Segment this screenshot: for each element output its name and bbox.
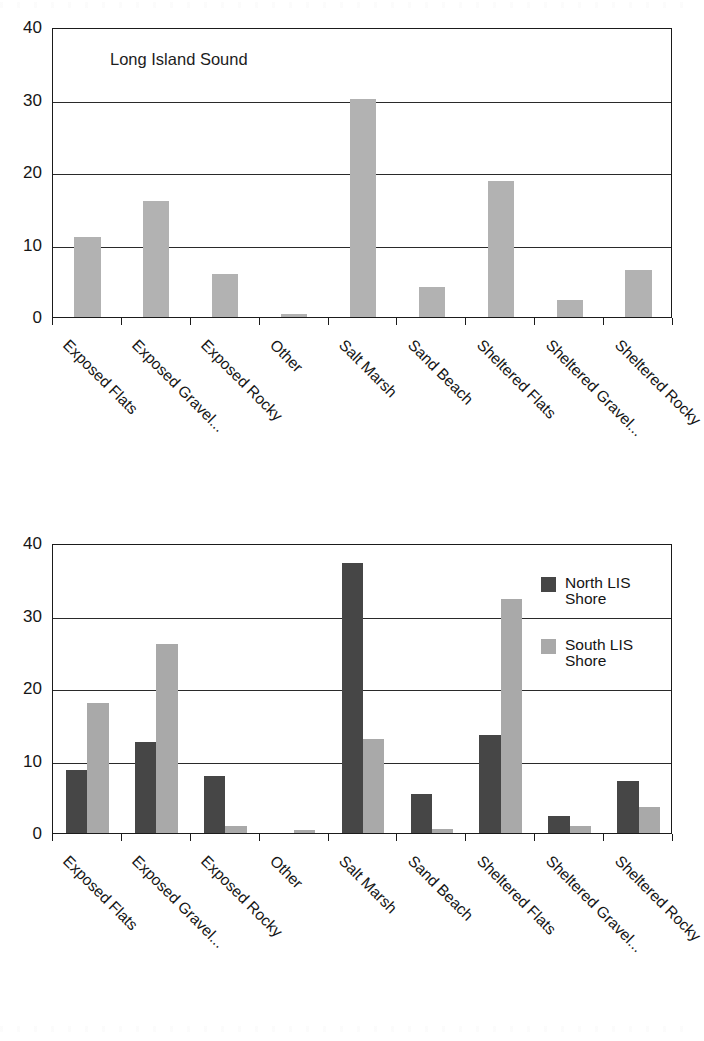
x-tick xyxy=(52,318,53,325)
bar-long-island-sound-exposed-flats xyxy=(74,237,100,317)
bottom-chart-figure: 40 30 20 10 0 North LIS Shore South LIS … xyxy=(0,520,697,1040)
x-tick xyxy=(672,318,673,325)
bottom-chart-category-labels: Exposed FlatsExposed Gravel...Exposed Ro… xyxy=(0,848,697,1008)
bar-north-lis-shore-sheltered-rocky xyxy=(617,781,638,833)
y-tick-label-40: 40 xyxy=(0,534,42,554)
x-tick xyxy=(603,318,604,325)
scan-artifact-bottom xyxy=(0,1026,697,1032)
y-tick-label-0: 0 xyxy=(0,824,42,844)
bottom-chart-y-axis-labels: 40 30 20 10 0 xyxy=(0,544,42,834)
x-tick xyxy=(465,318,466,325)
y-tick-label-20: 20 xyxy=(0,163,42,183)
bar-long-island-sound-salt-marsh xyxy=(350,99,376,317)
bar-long-island-sound-exposed-gravel- xyxy=(143,201,169,317)
x-tick xyxy=(121,318,122,325)
bar-long-island-sound-sheltered-gravel- xyxy=(557,300,583,317)
legend-label-south: South LIS Shore xyxy=(565,637,633,670)
bar-south-lis-shore-other xyxy=(294,830,315,833)
x-tick xyxy=(534,318,535,325)
x-tick xyxy=(534,834,535,841)
bar-long-island-sound-exposed-rocky xyxy=(212,274,238,318)
bar-north-lis-shore-exposed-gravel- xyxy=(135,742,156,833)
category-label-sand-beach: Sand Beach xyxy=(404,852,476,924)
x-tick xyxy=(328,834,329,841)
x-tick xyxy=(52,834,53,841)
y-tick-label-10: 10 xyxy=(0,236,42,256)
legend-swatch-north-icon xyxy=(541,577,556,592)
y-tick-label-0: 0 xyxy=(0,308,42,328)
top-chart-figure: 40 30 20 10 0 Long Island Sound Exposed … xyxy=(0,0,697,500)
x-tick xyxy=(259,318,260,325)
legend-label-north: North LIS Shore xyxy=(565,575,630,608)
bar-south-lis-shore-sheltered-gravel- xyxy=(570,826,591,833)
category-label-salt-marsh: Salt Marsh xyxy=(335,852,400,917)
bar-south-lis-shore-exposed-rocky xyxy=(225,826,246,833)
x-tick xyxy=(121,834,122,841)
bar-south-lis-shore-sheltered-rocky xyxy=(639,807,660,833)
y-tick-label-40: 40 xyxy=(0,18,42,38)
bar-long-island-sound-sheltered-flats xyxy=(488,181,514,317)
bar-north-lis-shore-sheltered-gravel- xyxy=(548,816,569,833)
y-tick-label-20: 20 xyxy=(0,679,42,699)
bar-long-island-sound-other xyxy=(281,314,307,317)
x-tick xyxy=(672,834,673,841)
category-label-sand-beach: Sand Beach xyxy=(404,336,476,408)
top-chart-plot-area xyxy=(52,28,672,318)
top-chart-bars xyxy=(53,29,671,317)
bar-south-lis-shore-exposed-gravel- xyxy=(156,644,177,833)
bottom-chart-plot-area: North LIS Shore South LIS Shore xyxy=(52,544,672,834)
legend-swatch-south-icon xyxy=(541,639,556,654)
bar-long-island-sound-sand-beach xyxy=(419,287,445,317)
bar-north-lis-shore-exposed-flats xyxy=(66,770,87,833)
x-tick xyxy=(396,834,397,841)
top-chart-category-labels: Exposed FlatsExposed Gravel...Exposed Ro… xyxy=(0,332,697,492)
x-tick xyxy=(328,318,329,325)
y-tick-label-30: 30 xyxy=(0,91,42,111)
x-tick xyxy=(190,318,191,325)
category-label-other: Other xyxy=(266,336,306,376)
category-label-salt-marsh: Salt Marsh xyxy=(335,336,400,401)
bar-north-lis-shore-exposed-rocky xyxy=(204,776,225,833)
x-tick xyxy=(190,834,191,841)
x-tick xyxy=(603,834,604,841)
bar-south-lis-shore-salt-marsh xyxy=(363,739,384,833)
bar-south-lis-shore-sheltered-flats xyxy=(501,599,522,833)
scan-artifact-top xyxy=(0,2,697,8)
bar-long-island-sound-sheltered-rocky xyxy=(625,270,651,317)
category-label-other: Other xyxy=(266,852,306,892)
y-tick-label-30: 30 xyxy=(0,607,42,627)
x-tick xyxy=(396,318,397,325)
bar-south-lis-shore-exposed-flats xyxy=(87,703,108,833)
x-tick xyxy=(465,834,466,841)
legend-item-north[interactable]: North LIS Shore xyxy=(541,575,630,608)
top-chart-x-ticks xyxy=(52,318,672,326)
top-chart-panel-label: Long Island Sound xyxy=(110,50,248,69)
top-chart-y-axis-labels: 40 30 20 10 0 xyxy=(0,28,42,318)
bar-north-lis-shore-sheltered-flats xyxy=(479,735,500,833)
legend-item-south[interactable]: South LIS Shore xyxy=(541,637,633,670)
y-tick-label-10: 10 xyxy=(0,752,42,772)
x-tick xyxy=(259,834,260,841)
bar-north-lis-shore-salt-marsh xyxy=(342,563,363,833)
bottom-chart-x-ticks xyxy=(52,834,672,842)
bar-south-lis-shore-sand-beach xyxy=(432,829,453,833)
bar-north-lis-shore-sand-beach xyxy=(411,794,432,833)
